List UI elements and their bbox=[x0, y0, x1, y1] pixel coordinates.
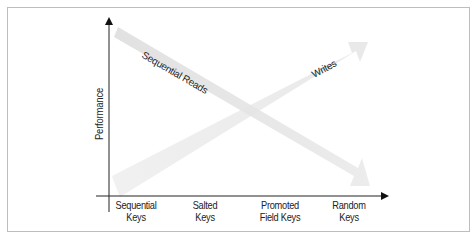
x-axis-arrowhead-icon bbox=[381, 192, 389, 200]
x-category-line1: Salted bbox=[183, 199, 227, 211]
x-category-random-keys: Random Keys bbox=[325, 199, 373, 223]
y-axis-arrowhead-icon bbox=[105, 17, 113, 25]
x-category-salted-keys: Salted Keys bbox=[183, 199, 227, 223]
x-category-line2: Keys bbox=[325, 211, 373, 223]
x-category-line1: Sequential bbox=[111, 199, 160, 211]
writes-label: Writes bbox=[310, 58, 339, 80]
x-category-line1: Random bbox=[325, 199, 373, 211]
x-category-sequential-keys: Sequential Keys bbox=[111, 199, 160, 223]
y-axis bbox=[105, 17, 113, 212]
x-category-line2: Keys bbox=[111, 211, 160, 223]
x-category-line2: Field Keys bbox=[254, 211, 307, 223]
x-category-line1: Promoted bbox=[254, 199, 307, 211]
y-axis-label: Performance bbox=[93, 83, 105, 146]
x-category-line2: Keys bbox=[183, 211, 227, 223]
x-category-promoted-field-keys: Promoted Field Keys bbox=[254, 199, 307, 223]
tradeoff-diagram: Sequential Reads Writes bbox=[0, 0, 476, 242]
sequential-reads-label: Sequential Reads bbox=[140, 49, 210, 96]
